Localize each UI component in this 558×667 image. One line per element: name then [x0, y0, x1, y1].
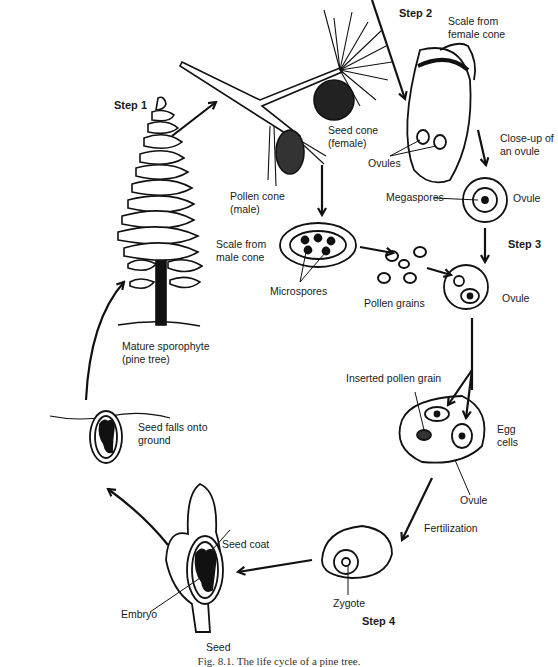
- seed-falls-label: Seed falls ontoground: [138, 421, 207, 446]
- megaspores-label: Megaspores: [386, 191, 444, 204]
- life-cycle-illustration: [0, 0, 558, 667]
- seed-coat-label: Seed coat: [222, 538, 269, 551]
- ovule-top-label: Ovule: [513, 192, 540, 205]
- female-cone-scale-icon: [390, 44, 475, 183]
- seed-icon: [150, 484, 230, 632]
- pollen-cone-icon: [276, 130, 304, 174]
- zygote-icon: [322, 526, 392, 595]
- step-3-label: Step 3: [508, 238, 541, 251]
- seed-cone-icon: [314, 80, 354, 120]
- mature-sporophyte-label: Mature sporophyte(pine tree): [122, 340, 210, 365]
- step-4-label: Step 4: [362, 615, 395, 628]
- embryo-label: Embryo: [121, 608, 157, 621]
- ovules-label: Ovules: [368, 157, 401, 170]
- inserted-pollen-label: Inserted pollen grain: [346, 372, 441, 385]
- pine-branch-icon: [180, 10, 392, 186]
- seed-cone-label: Seed cone(female): [328, 124, 378, 149]
- closeup-label: Close-up ofan ovule: [500, 132, 554, 157]
- pollen-cone-label: Pollen cone(male): [230, 190, 285, 215]
- fertilization-ovule-icon: [400, 392, 485, 495]
- microspores-label: Microspores: [270, 285, 327, 298]
- ovule-closeup-icon: [434, 178, 507, 222]
- male-cone-scale-icon: [280, 223, 356, 282]
- egg-cells-label: Eggcells: [497, 423, 518, 448]
- ovule-step3-label: Ovule: [502, 292, 529, 305]
- ovule-step3-icon: [444, 265, 488, 309]
- scale-female-label: Scale fromfemale cone: [448, 15, 505, 40]
- figure-caption: Fig. 8.1. The life cycle of a pine tree.: [0, 655, 558, 667]
- fertilization-label: Fertilization: [424, 522, 478, 535]
- scale-male-label: Scale frommale cone: [216, 238, 266, 263]
- ovule-fertilization-label: Ovule: [460, 494, 487, 507]
- pine-tree-icon: [118, 97, 202, 326]
- seed-label: Seed: [206, 641, 231, 654]
- step-1-label: Step 1: [114, 99, 147, 112]
- pollen-grains-label: Pollen grains: [364, 297, 425, 310]
- step-2-label: Step 2: [399, 7, 432, 20]
- zygote-label: Zygote: [333, 597, 365, 610]
